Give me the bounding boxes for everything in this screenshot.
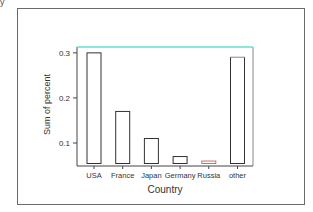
bar-france xyxy=(116,111,130,163)
y-tick-label: 0.1 xyxy=(59,139,71,148)
bar-other xyxy=(231,57,245,163)
x-axis-label: Country xyxy=(147,184,182,195)
y-axis-label: Sum of percent xyxy=(42,73,52,135)
y-tick-label: 0.3 xyxy=(59,49,71,58)
x-tick-label: other xyxy=(229,171,247,180)
x-tick-label: USA xyxy=(86,171,101,180)
bar-usa xyxy=(87,53,101,164)
bar-germany xyxy=(173,157,187,164)
x-tick-label: Russia xyxy=(197,171,221,180)
y-tick-label: 0.2 xyxy=(59,94,71,103)
bar-japan xyxy=(144,139,158,164)
x-tick-label: France xyxy=(111,171,134,180)
x-tick-label: Germany xyxy=(165,171,196,180)
bar-russia xyxy=(202,161,216,163)
x-tick-label: Japan xyxy=(141,171,161,180)
bar-chart: 0.10.20.3USAFranceJapanGermanyRussiaothe… xyxy=(0,0,313,212)
